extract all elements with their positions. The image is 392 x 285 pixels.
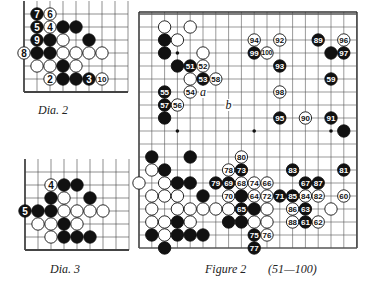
white-stone [248,216,260,228]
white-stone-58: 58 [210,73,222,85]
white-stone [197,47,209,59]
svg-text:71: 71 [275,192,284,201]
svg-text:65: 65 [237,205,246,214]
figure-2-move-range: (51—100) [268,262,317,277]
svg-text:94: 94 [250,36,259,45]
black-stone-73: 73 [235,164,247,176]
white-stone [158,177,170,189]
white-stone-72: 72 [261,190,273,202]
svg-text:68: 68 [237,179,246,188]
black-stone-79: 79 [210,177,222,189]
white-stone [261,203,273,215]
svg-text:78: 78 [224,166,233,175]
svg-text:92: 92 [275,36,284,45]
svg-text:72: 72 [263,192,272,201]
point-label-b: b [226,98,232,112]
white-stone-56: 56 [171,99,183,111]
black-stone [235,190,247,202]
black-stone-55: 55 [158,86,170,98]
white-stone-76: 76 [261,229,273,241]
white-stone [146,164,158,176]
black-stone [171,229,183,241]
svg-text:74: 74 [250,179,259,188]
white-stone [171,34,183,46]
black-stone [171,60,183,72]
svg-text:55: 55 [160,88,169,97]
white-stone-98: 98 [274,86,286,98]
star-point [176,51,180,55]
black-stone [171,177,183,189]
black-stone-83: 83 [286,164,298,176]
svg-text:83: 83 [288,166,297,175]
white-stone [146,203,158,215]
svg-text:100: 100 [262,49,273,56]
black-stone-77: 77 [248,242,260,254]
white-stone-70: 70 [222,190,234,202]
svg-text:63: 63 [301,205,310,214]
black-stone [171,216,183,228]
black-stone [158,112,170,124]
figure-2-board: ab51525358555457569492899699100979359989… [0,0,392,260]
svg-text:87: 87 [314,179,323,188]
white-stone [158,216,170,228]
svg-text:95: 95 [275,114,284,123]
black-stone [158,34,170,46]
svg-text:96: 96 [339,36,348,45]
white-stone-62: 62 [312,216,324,228]
black-stone [325,47,337,59]
black-stone-57: 57 [158,99,170,111]
black-stone [235,216,247,228]
black-stone-51: 51 [184,60,196,72]
black-stone-97: 97 [338,47,350,59]
black-stone [222,216,234,228]
svg-text:75: 75 [250,231,259,240]
black-stone [338,125,350,137]
svg-text:97: 97 [339,49,348,58]
black-stone [184,177,196,189]
svg-text:70: 70 [224,192,233,201]
black-stone [184,151,196,163]
white-stone-64: 64 [248,190,260,202]
svg-text:84: 84 [301,192,310,201]
black-stone-65: 65 [235,203,247,215]
svg-text:60: 60 [339,192,348,201]
figure-2-caption: Figure 2 [205,262,246,277]
svg-text:56: 56 [173,101,182,110]
svg-text:61: 61 [301,218,310,227]
black-stone-71: 71 [274,190,286,202]
svg-text:67: 67 [301,179,310,188]
black-stone-59: 59 [325,73,337,85]
white-stone-52: 52 [197,60,209,72]
svg-text:51: 51 [186,62,195,71]
white-stone-54: 54 [184,86,196,98]
black-stone-63: 63 [299,203,311,215]
svg-text:89: 89 [314,36,323,45]
svg-text:57: 57 [160,101,169,110]
black-stone [158,47,170,59]
black-stone-89: 89 [312,34,324,46]
white-stone-86: 86 [286,203,298,215]
white-stone [184,21,196,33]
svg-text:85: 85 [288,192,297,201]
black-stone-91: 91 [325,112,337,124]
black-stone [146,151,158,163]
black-stone [158,164,170,176]
svg-text:76: 76 [263,231,272,240]
black-stone-87: 87 [312,177,324,189]
black-stone-95: 95 [274,112,286,124]
svg-text:80: 80 [237,153,246,162]
star-point [176,129,180,133]
black-stone-53: 53 [197,73,209,85]
black-stone [184,229,196,241]
svg-text:54: 54 [186,88,195,97]
svg-text:79: 79 [211,179,220,188]
white-stone [197,203,209,215]
white-stone [133,177,145,189]
svg-text:90: 90 [301,114,310,123]
white-stone-74: 74 [248,177,260,189]
svg-text:98: 98 [275,88,284,97]
star-point [252,129,256,133]
white-stone [146,216,158,228]
star-point [329,129,333,133]
dia-3-caption: Dia. 3 [50,262,80,277]
